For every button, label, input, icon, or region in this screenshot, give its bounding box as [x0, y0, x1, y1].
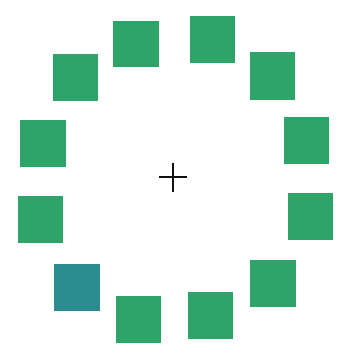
standard-square — [20, 120, 66, 167]
standard-square — [116, 296, 161, 343]
standard-square — [113, 21, 159, 67]
standard-square — [188, 292, 233, 339]
standard-square — [250, 260, 296, 307]
standard-square — [250, 52, 295, 100]
target-square — [54, 264, 100, 311]
standard-square — [288, 193, 333, 240]
fixation-cross-vertical — [172, 163, 174, 192]
standard-square — [190, 16, 235, 63]
standard-square — [53, 54, 98, 101]
standard-square — [284, 117, 329, 164]
standard-square — [18, 196, 63, 243]
